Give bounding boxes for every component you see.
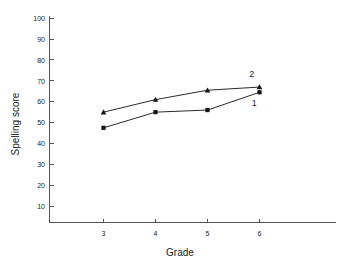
y-axis-tick-labels: 100 90 80 70 60 50 40 30 20 10 xyxy=(33,15,45,210)
spelling-score-line-chart: 100 90 80 70 60 50 40 30 20 10 3 4 5 6 xyxy=(0,0,342,271)
y-tick-label-10: 10 xyxy=(37,203,45,210)
data-point-1-grade-3 xyxy=(101,126,105,130)
y-tick-label-30: 30 xyxy=(37,161,45,168)
data-point-1-grade-5 xyxy=(205,108,209,112)
y-axis-ticks xyxy=(50,18,54,206)
y-tick-label-90: 90 xyxy=(37,36,45,43)
series-1-line xyxy=(104,92,260,128)
series-label-2: 2 xyxy=(249,69,254,79)
y-tick-label-80: 80 xyxy=(37,57,45,64)
data-point-1-grade-6 xyxy=(257,90,261,94)
series-label-1: 1 xyxy=(252,98,257,108)
y-tick-label-20: 20 xyxy=(37,182,45,189)
y-tick-label-60: 60 xyxy=(37,98,45,105)
data-point-1-grade-4 xyxy=(153,110,157,114)
x-tick-label-6: 6 xyxy=(258,230,262,237)
series-2-line xyxy=(104,87,260,112)
x-tick-label-3: 3 xyxy=(102,230,106,237)
x-axis-tick-labels: 3 4 5 6 xyxy=(102,230,262,237)
y-tick-label-100: 100 xyxy=(33,15,45,22)
y-tick-label-70: 70 xyxy=(37,78,45,85)
x-tick-label-4: 4 xyxy=(154,230,158,237)
series-1-markers xyxy=(101,90,261,130)
x-tick-label-5: 5 xyxy=(206,230,210,237)
y-tick-label-40: 40 xyxy=(37,140,45,147)
chart-page: 100 90 80 70 60 50 40 30 20 10 3 4 5 6 xyxy=(0,0,342,271)
x-axis-title: Grade xyxy=(166,247,194,258)
y-tick-label-50: 50 xyxy=(37,119,45,126)
x-axis-ticks xyxy=(104,219,260,223)
y-axis-title: Spelling score xyxy=(10,92,21,155)
